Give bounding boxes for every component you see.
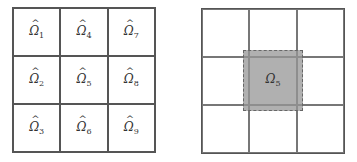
overlapping-subdomain-patch: Ω5 [243, 50, 303, 111]
subdomain-cell: ^Ω3 [13, 104, 60, 152]
subdomain-cell: ^Ω7 [108, 8, 155, 56]
subdomain-cell: ^Ω1 [13, 8, 60, 56]
grid-cell [297, 9, 344, 57]
subdomain-cell: ^Ω2 [13, 56, 60, 104]
subdomain-cell: ^Ω9 [108, 104, 155, 152]
grid-cell [297, 57, 344, 105]
grid-cell [202, 105, 249, 153]
subdomain-cell: ^Ω4 [60, 8, 107, 56]
subdomain-cell: ^Ω5 [60, 56, 107, 104]
grid-cell [249, 105, 296, 153]
subdomain-cell: ^Ω6 [60, 104, 107, 152]
grid-cell [297, 105, 344, 153]
subdomain-cell: ^Ω8 [108, 56, 155, 104]
left-partition-grid: ^Ω1 ^Ω4 ^Ω7 ^Ω2 ^Ω5 ^Ω8 ^Ω3 ^Ω6 ^Ω9 [12, 7, 156, 153]
patch-label: Ω5 [265, 72, 280, 88]
